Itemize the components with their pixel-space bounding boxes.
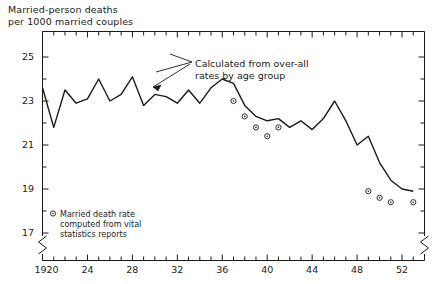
y-tick-label: 17 xyxy=(10,227,34,238)
data-marker-vital-statistics-dot xyxy=(244,116,246,118)
data-marker-vital-statistics-dot xyxy=(379,197,381,199)
data-marker-vital-statistics-dot xyxy=(368,190,370,192)
x-tick-label: 36 xyxy=(207,264,237,275)
x-tick-label: 32 xyxy=(162,264,192,275)
annotation-leader-line xyxy=(156,54,192,72)
legend-marker-icon-dot xyxy=(52,213,54,215)
data-marker-vital-statistics-dot xyxy=(390,201,392,203)
x-tick-label: 52 xyxy=(387,264,417,275)
chart-figure: Married-person deaths per 1000 married c… xyxy=(0,0,444,284)
y-tick-label: 25 xyxy=(10,51,34,62)
y-axis-break-left xyxy=(39,236,47,254)
data-marker-vital-statistics-dot xyxy=(278,127,280,129)
x-tick-label: 28 xyxy=(117,264,147,275)
data-marker-vital-statistics-dot xyxy=(266,135,268,137)
plot-canvas xyxy=(0,0,444,284)
data-line-calculated xyxy=(43,77,414,191)
x-tick-label: 40 xyxy=(252,264,282,275)
y-tick-label: 19 xyxy=(10,183,34,194)
x-tick-label: 48 xyxy=(342,264,372,275)
x-tick-label: 1920 xyxy=(32,264,62,275)
data-marker-vital-statistics-dot xyxy=(412,201,414,203)
y-axis-break-right xyxy=(421,236,429,254)
y-tick-label: 23 xyxy=(10,95,34,106)
data-marker-vital-statistics-dot xyxy=(233,100,235,102)
x-tick-label: 44 xyxy=(297,264,327,275)
data-marker-vital-statistics-dot xyxy=(255,127,257,129)
x-tick-label: 24 xyxy=(72,264,102,275)
y-tick-label: 21 xyxy=(10,139,34,150)
